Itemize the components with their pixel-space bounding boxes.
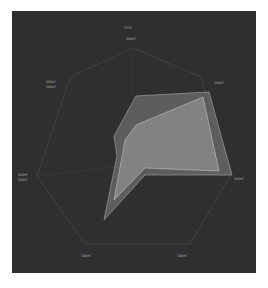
radar-chart [0,0,268,288]
axis-label-top: label [126,36,136,41]
axis-label-left: label label [18,172,28,182]
axis-title-label: title [124,25,132,30]
axis-label-top-right: label [214,80,224,85]
axis-label-top-left: label label [46,79,56,89]
axis-label-bottom-right: label [177,253,187,258]
axis-label-right: label [234,176,244,181]
axis-label-bottom-left: label [81,253,91,258]
